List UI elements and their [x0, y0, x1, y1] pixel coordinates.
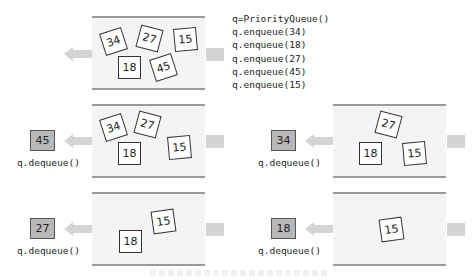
- operation-label: q.dequeue(): [258, 245, 321, 256]
- faint-watermark: [150, 270, 330, 276]
- queue-item: 18: [359, 142, 382, 165]
- queue-item: 15: [167, 135, 192, 160]
- queue-item: 15: [379, 217, 405, 243]
- priority-queue: 15: [333, 192, 446, 266]
- dequeue-arrow-icon: [64, 47, 92, 61]
- dequeued-value: 18: [271, 218, 296, 239]
- operation-label: q.dequeue(): [17, 157, 80, 168]
- queue-item: 18: [118, 142, 141, 165]
- queue-item: 15: [402, 141, 427, 166]
- queue-item: 18: [119, 230, 142, 253]
- queue-item: 27: [374, 110, 402, 138]
- enqueue-arrow-icon: [206, 48, 224, 61]
- enqueue-arrow-icon: [206, 223, 224, 236]
- code-line: q.enqueue(34): [232, 25, 329, 38]
- dequeued-value: 27: [30, 218, 55, 239]
- code-listing: q=PriorityQueue() q.enqueue(34) q.enqueu…: [232, 12, 329, 91]
- dequeue-arrow-icon: [305, 134, 333, 148]
- priority-queue: 34 27 15 18 45: [92, 16, 205, 90]
- code-line: q.enqueue(45): [232, 65, 329, 78]
- priority-queue: 34 27 18 15: [92, 104, 205, 178]
- queue-item: 34: [99, 113, 128, 142]
- priority-queue: 27 18 15: [333, 104, 446, 178]
- queue-item: 27: [135, 24, 163, 52]
- queue-item: 34: [99, 27, 128, 56]
- queue-item: 15: [173, 27, 198, 52]
- code-line: q.enqueue(15): [232, 78, 329, 91]
- dequeue-arrow-icon: [64, 222, 92, 236]
- queue-item: 15: [151, 209, 177, 235]
- queue-item: 27: [133, 110, 161, 138]
- dequeued-value: 45: [30, 130, 55, 151]
- priority-queue: 15 18: [92, 192, 205, 266]
- queue-item: 18: [118, 56, 141, 79]
- enqueue-arrow-icon: [206, 135, 224, 148]
- code-line: q=PriorityQueue(): [232, 12, 329, 25]
- code-line: q.enqueue(18): [232, 38, 329, 51]
- operation-label: q.dequeue(): [17, 245, 80, 256]
- dequeued-value: 34: [271, 130, 296, 151]
- enqueue-arrow-icon: [447, 135, 465, 148]
- code-line: q.enqueue(27): [232, 52, 329, 65]
- queue-item: 45: [149, 53, 178, 82]
- dequeue-arrow-icon: [305, 222, 333, 236]
- enqueue-arrow-icon: [447, 223, 465, 236]
- operation-label: q.dequeue(): [258, 157, 321, 168]
- dequeue-arrow-icon: [64, 134, 92, 148]
